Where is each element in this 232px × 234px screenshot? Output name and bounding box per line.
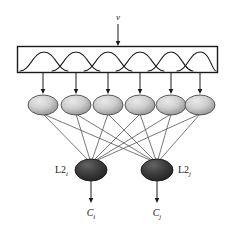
l2-label-j: L2j — [178, 164, 191, 178]
l1-node-3[interactable] — [93, 95, 123, 115]
output-arrows — [91, 181, 157, 201]
box-to-layer1-arrows — [43, 73, 200, 92]
output-label-c-j: Cj — [153, 207, 162, 221]
output-label-c-i-sub: i — [93, 213, 95, 221]
l1-node-1[interactable] — [28, 95, 58, 115]
connection-line — [157, 114, 200, 163]
output-labels: Ci Cj — [87, 207, 162, 221]
connection-line — [140, 114, 157, 163]
l1-node-6[interactable] — [185, 95, 215, 115]
l1-node-4[interactable] — [125, 95, 155, 115]
l2-node-j[interactable] — [141, 159, 173, 181]
l2-label-i-text: L2 — [55, 164, 66, 175]
l2-label-j-text: L2 — [178, 164, 189, 175]
l2-label-i-sub: i — [66, 170, 68, 178]
l2-node-i[interactable] — [75, 159, 107, 181]
layer1-to-layer2-connections — [43, 114, 200, 163]
output-label-c-j-sub: j — [158, 213, 161, 221]
l1-node-2[interactable] — [61, 95, 91, 115]
layer1-nodes — [28, 95, 215, 115]
tuning-curve-box — [18, 47, 218, 73]
layer2-nodes — [75, 159, 173, 181]
network-diagram: v — [0, 0, 232, 234]
output-label-c-i: Ci — [87, 207, 96, 221]
l2-label-i: L2i — [55, 164, 68, 178]
connection-line — [43, 114, 157, 163]
figure-root: v — [0, 0, 232, 234]
l1-node-5[interactable] — [156, 95, 186, 115]
l2-label-j-sub: j — [188, 170, 191, 178]
input-label-v: v — [116, 12, 120, 22]
input-group: v — [116, 12, 120, 44]
